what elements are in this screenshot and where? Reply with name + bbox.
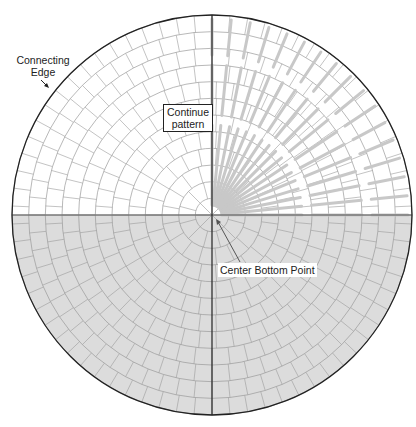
connecting-edge-label: Connecting Edge bbox=[14, 54, 72, 78]
connecting-edge-line1: Connecting bbox=[14, 54, 72, 66]
center-bottom-point-label: Center Bottom Point bbox=[218, 263, 317, 277]
continue-line2: pattern bbox=[167, 118, 209, 130]
continue-pattern-callout: Continue pattern bbox=[163, 104, 213, 132]
connecting-edge-line2: Edge bbox=[14, 66, 72, 78]
continue-line1: Continue bbox=[167, 106, 209, 118]
